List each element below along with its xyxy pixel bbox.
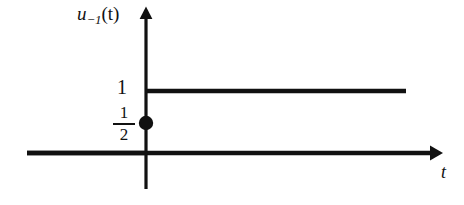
unit-step-figure: u−1(t) t 1 1 2	[0, 0, 464, 205]
y-tick-label-half: 1 2	[113, 104, 135, 144]
y-axis-arrowhead	[140, 7, 153, 20]
t-axis-arrowhead	[430, 146, 443, 161]
y-tick-label-one: 1	[117, 77, 127, 97]
y-axis	[140, 7, 153, 190]
y-axis-label-base: u	[77, 3, 87, 24]
y-axis-label-argument: (t)	[101, 3, 119, 24]
y-axis-label-subscript: −1	[87, 12, 102, 27]
fraction-denominator: 2	[113, 126, 135, 144]
origin-value-dot	[139, 116, 153, 130]
fraction-numerator: 1	[113, 104, 135, 122]
t-axis-label: t	[441, 163, 446, 181]
plot-canvas	[0, 0, 464, 205]
y-axis-label: u−1(t)	[77, 4, 119, 26]
